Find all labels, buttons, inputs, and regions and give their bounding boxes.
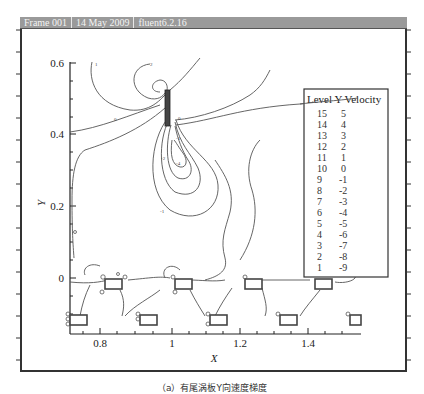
y-axis-label: Y bbox=[35, 198, 47, 206]
xtick-1.2: 1.2 bbox=[233, 337, 247, 349]
svg-text:3: 3 bbox=[317, 240, 322, 251]
tick-labels: 0.6 0.4 0.2 0 0.8 1 1.2 1.4 bbox=[50, 57, 315, 349]
legend-title: Level Y Velocity bbox=[307, 93, 382, 105]
svg-text:2: 2 bbox=[317, 251, 322, 262]
ytick-0: 0 bbox=[59, 272, 65, 284]
ytick-0.2: 0.2 bbox=[50, 200, 64, 212]
svg-text:5: 5 bbox=[317, 218, 322, 229]
svg-text:2: 2 bbox=[341, 141, 346, 152]
body-rectangles bbox=[70, 279, 361, 325]
svg-text:3: 3 bbox=[341, 130, 346, 141]
svg-text:-4: -4 bbox=[176, 161, 181, 166]
svg-text:-1: -1 bbox=[176, 136, 181, 141]
xtick-1: 1 bbox=[169, 337, 175, 349]
svg-text:6: 6 bbox=[317, 207, 322, 218]
svg-text:1: 1 bbox=[317, 262, 322, 273]
svg-text:2: 2 bbox=[150, 62, 153, 67]
svg-text:13: 13 bbox=[317, 130, 327, 141]
svg-text:-5: -5 bbox=[339, 218, 347, 229]
xtick-1.4: 1.4 bbox=[301, 337, 315, 349]
xtick-0.8: 0.8 bbox=[93, 337, 107, 349]
svg-text:8: 8 bbox=[317, 185, 322, 196]
svg-text:-8: -8 bbox=[339, 251, 347, 262]
svg-text:-9: -9 bbox=[339, 262, 347, 273]
svg-text:11: 11 bbox=[317, 152, 327, 163]
svg-text:-4: -4 bbox=[339, 207, 347, 218]
svg-text:9: 9 bbox=[317, 174, 322, 185]
svg-text:-7: -7 bbox=[339, 240, 347, 251]
svg-text:-2: -2 bbox=[161, 156, 166, 161]
svg-text:-2: -2 bbox=[339, 185, 347, 196]
svg-text:0: 0 bbox=[178, 116, 181, 121]
svg-text:7: 7 bbox=[317, 196, 322, 207]
svg-text:0: 0 bbox=[341, 163, 346, 174]
ytick-0.6: 0.6 bbox=[50, 57, 64, 69]
svg-text:4: 4 bbox=[317, 229, 322, 240]
svg-text:10: 10 bbox=[317, 163, 327, 174]
svg-text:1: 1 bbox=[341, 152, 346, 163]
svg-text:12: 12 bbox=[317, 141, 327, 152]
x-axis-label: X bbox=[210, 352, 219, 364]
svg-text:-6: -6 bbox=[339, 229, 347, 240]
svg-text:-3: -3 bbox=[339, 196, 347, 207]
svg-text:0: 0 bbox=[114, 117, 117, 122]
ytick-0.4: 0.4 bbox=[50, 128, 64, 140]
figure-caption: （a）有尾涡板Y向速度梯度 bbox=[0, 381, 424, 394]
x-ticks bbox=[83, 328, 342, 334]
legend: Level Y Velocity 155 144 133 122 111 100… bbox=[304, 89, 388, 277]
contour-plot: 0.6 0.4 0.2 0 0.8 1 1.2 1.4 X Y bbox=[0, 0, 424, 394]
y-ticks bbox=[70, 63, 76, 314]
svg-text:1: 1 bbox=[95, 62, 98, 67]
svg-text:4: 4 bbox=[341, 119, 346, 130]
svg-text:-1: -1 bbox=[160, 209, 165, 214]
svg-text:-1: -1 bbox=[339, 174, 347, 185]
vertical-plate bbox=[165, 90, 170, 126]
svg-text:5: 5 bbox=[341, 108, 346, 119]
svg-text:14: 14 bbox=[317, 119, 327, 130]
svg-text:15: 15 bbox=[317, 108, 327, 119]
